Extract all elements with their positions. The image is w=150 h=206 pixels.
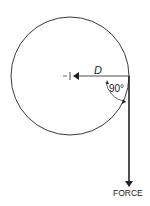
force-label: FORCE: [113, 188, 143, 198]
torque-diagram: D 90° FORCE: [0, 0, 150, 206]
distance-label: D: [94, 64, 102, 76]
center-mark: [63, 72, 70, 80]
angle-label: 90°: [109, 83, 124, 94]
